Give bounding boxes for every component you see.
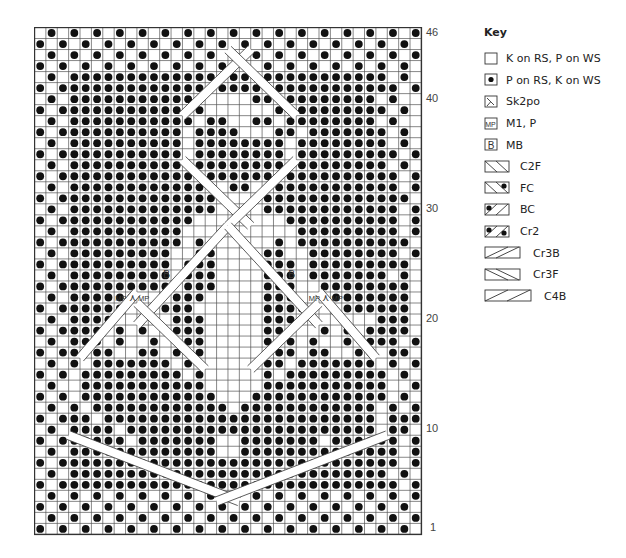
knit-symbol-icon (484, 52, 498, 66)
key-item-label: C4B (544, 290, 566, 303)
key-item-cr3f: Cr3F (484, 264, 601, 286)
cr3b-symbol-icon (484, 246, 521, 260)
key-item-label: MB (506, 139, 523, 152)
row-number-labels: 46403020101 (426, 0, 456, 558)
key-item-label: FC (520, 182, 534, 195)
m1p-marker: MP (115, 294, 126, 303)
key-item-label: P on RS, K on WS (506, 74, 601, 87)
key-item-label: BC (520, 203, 535, 216)
key-item-label: K on RS, P on WS (506, 52, 601, 65)
key-list: K on RS, P on WSP on RS, K on WSSk2poMPM… (484, 48, 601, 307)
key-item-label: Sk2po (506, 95, 540, 108)
key-title: Key (484, 26, 601, 39)
knitting-chart: MP⋏MPMP⋏MPBB (34, 27, 423, 540)
key-item-cr2: Cr2 (484, 221, 601, 243)
key-item-label: Cr3B (533, 247, 560, 260)
key-item-label: Cr3F (533, 268, 559, 281)
cr3f-symbol-icon (484, 268, 521, 282)
key-item-label: C2F (520, 160, 541, 173)
c4b-symbol-icon (484, 289, 532, 303)
key-item-mb: BMB (484, 134, 601, 156)
chart-key: Key K on RS, P on WSP on RS, K on WSSk2p… (484, 26, 601, 307)
row-label-20: 20 (426, 312, 438, 324)
purl-symbol-icon (484, 73, 498, 87)
mb-symbol-icon: B (484, 138, 498, 152)
svg-text:MP: MP (485, 121, 496, 128)
chart-grid: MP⋏MPMP⋏MPBB (34, 27, 423, 536)
cr2-symbol-icon (484, 225, 510, 239)
key-item-cr3b: Cr3B (484, 242, 601, 264)
m1p-marker: MP (332, 294, 343, 303)
key-item-purl: P on RS, K on WS (484, 70, 601, 92)
row-label-1: 1 (430, 521, 436, 533)
sk2po-marker: ⋏ (322, 292, 329, 303)
key-item-mp: MPM1, P (484, 113, 601, 135)
key-item-bc: BC (484, 199, 601, 221)
mb-marker: B (288, 269, 295, 280)
m1p-marker: MP (309, 294, 320, 303)
row-label-40: 40 (426, 92, 438, 104)
c2f-symbol-icon (484, 160, 510, 174)
bc-symbol-icon (484, 203, 510, 217)
m1p-marker: MP (138, 294, 149, 303)
key-item-label: Cr2 (520, 225, 539, 238)
sk2po-marker: ⋏ (129, 292, 136, 303)
sk2po-symbol-icon (484, 95, 498, 109)
key-item-fc: FC (484, 178, 601, 200)
row-label-10: 10 (426, 422, 438, 434)
svg-text:B: B (488, 140, 495, 151)
key-item-c2f: C2F (484, 156, 601, 178)
key-item-c4b: C4B (484, 286, 601, 308)
row-label-30: 30 (426, 202, 438, 214)
mp-symbol-icon: MP (484, 117, 498, 131)
mb-marker: B (163, 269, 170, 280)
key-item-label: M1, P (506, 117, 536, 130)
key-item-knit: K on RS, P on WS (484, 48, 601, 70)
row-label-46: 46 (426, 26, 438, 38)
key-item-sk2po: Sk2po (484, 91, 601, 113)
fc-symbol-icon (484, 181, 510, 195)
